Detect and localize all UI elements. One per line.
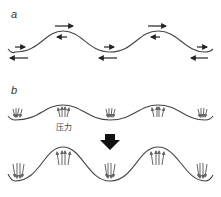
panel-a-wave: [8, 31, 213, 53]
panel-b-lower-pressure-arrows: [13, 151, 207, 178]
transition-arrow-icon: [100, 134, 120, 150]
diagram-canvas: [0, 0, 221, 197]
panel-b-upper-wave: [8, 105, 213, 120]
panel-a-flow-arrows: [10, 26, 208, 58]
figure: a b 压力: [0, 0, 221, 197]
